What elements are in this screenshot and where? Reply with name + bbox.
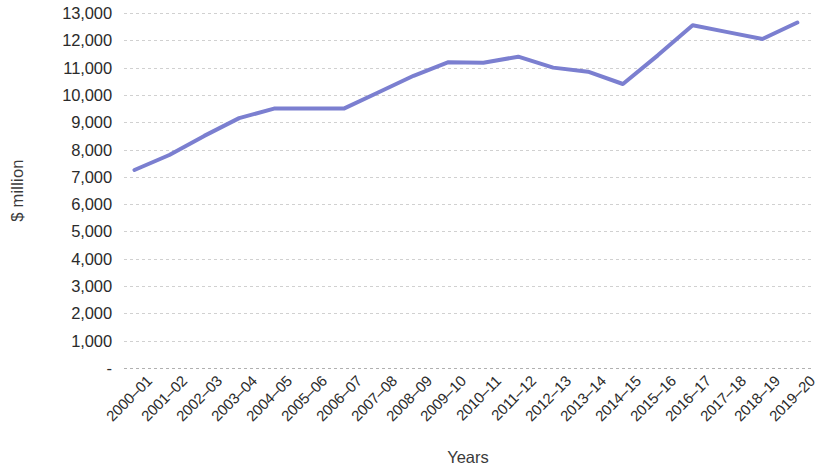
y-axis-tick-label: 12,000 (62, 31, 112, 50)
y-axis-tick-label: 1,000 (71, 331, 112, 350)
line-chart: $ million -1,0002,0003,0004,0005,0006,00… (0, 0, 820, 476)
y-axis-tick-label: 10,000 (62, 85, 112, 104)
y-axis-tick-label: 9,000 (71, 113, 112, 132)
y-axis-tick-label: 5,000 (71, 222, 112, 241)
y-axis-tick-label: 8,000 (71, 140, 112, 159)
y-axis-tick-labels: -1,0002,0003,0004,0005,0006,0007,0008,00… (34, 0, 118, 380)
series-line (134, 23, 797, 170)
y-axis-tick-label: 2,000 (71, 304, 112, 323)
plot-area (124, 13, 812, 368)
y-axis-tick-label: 11,000 (63, 58, 112, 77)
y-axis-tick-label: 6,000 (71, 195, 112, 214)
y-axis-title: $ million (0, 0, 34, 380)
x-axis-tick-labels: 2000–012001–022002–032003–042004–052005–… (124, 372, 812, 444)
series-line-chart-svg (124, 13, 812, 368)
y-axis-tick-label: 7,000 (71, 167, 112, 186)
y-axis-tick-label: - (107, 359, 112, 378)
y-axis-tick-label: 13,000 (62, 4, 112, 23)
gridline (124, 368, 812, 369)
y-axis-tick-label: 4,000 (71, 249, 112, 268)
y-axis-title-label: $ million (8, 159, 27, 221)
y-axis-tick-label: 3,000 (71, 277, 112, 296)
x-axis-title: Years (124, 448, 812, 467)
